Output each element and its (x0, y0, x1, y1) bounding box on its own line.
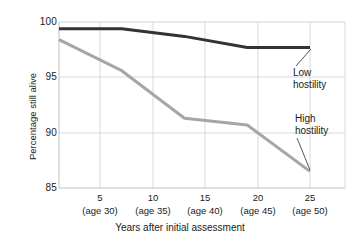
annotation-high-hostility-line2: hostility (295, 125, 328, 137)
x-tick-label-25: 25 (age 50) (282, 192, 338, 217)
annotation-low-hostility: Low hostility (293, 67, 326, 90)
x-tick-num-10: 10 (125, 192, 181, 205)
x-tick-age-15: (age 40) (177, 205, 233, 218)
annotation-high-hostility-line1: High (295, 113, 328, 125)
series-line-low-hostility (59, 29, 310, 48)
annotation-low-hostility-line1: Low (293, 67, 326, 79)
chart-figure: Percentage still alive 100 95 90 85 Low … (0, 0, 360, 244)
annotation-high-hostility: High hostility (295, 113, 328, 136)
x-tick-num-5: 5 (72, 192, 128, 205)
x-tick-num-15: 15 (177, 192, 233, 205)
x-tick-age-25: (age 50) (282, 205, 338, 218)
x-tick-label-20: 20 (age 45) (230, 192, 286, 217)
x-tick-label-15: 15 (age 40) (177, 192, 233, 217)
x-tick-num-20: 20 (230, 192, 286, 205)
x-tick-age-5: (age 30) (72, 205, 128, 218)
leader-line-low-hostility (296, 49, 311, 66)
x-axis-title: Years after initial assessment (0, 222, 360, 233)
series-line-high-hostility (59, 40, 310, 172)
annotation-low-hostility-line2: hostility (293, 79, 326, 91)
x-tick-label-5: 5 (age 30) (72, 192, 128, 217)
x-tick-age-20: (age 45) (230, 205, 286, 218)
x-tick-num-25: 25 (282, 192, 338, 205)
x-tick-age-10: (age 35) (125, 205, 181, 218)
x-tick-label-10: 10 (age 35) (125, 192, 181, 217)
